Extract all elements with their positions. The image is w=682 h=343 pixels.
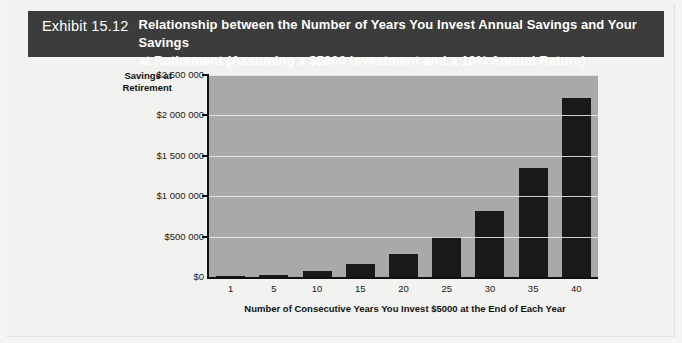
y-axis-tick — [202, 195, 208, 197]
y-axis-tick-label: $2 000 000 — [120, 109, 204, 120]
exhibit-figure: Exhibit 15.12 Relationship between the N… — [0, 0, 682, 343]
x-axis-tick-label: 20 — [384, 283, 424, 294]
bar — [562, 98, 591, 277]
gridline — [209, 156, 598, 157]
y-axis-tick-label: $1 500 000 — [120, 150, 204, 161]
plot-area — [209, 75, 598, 277]
x-axis-line — [207, 277, 598, 279]
x-axis-tick-label: 10 — [297, 283, 337, 294]
x-axis-tick-label: 1 — [211, 283, 251, 294]
gridline — [209, 237, 598, 238]
bar — [346, 264, 375, 277]
y-axis-tick — [202, 155, 208, 157]
y-axis-tick-label: $500 000 — [120, 231, 204, 242]
y-axis-line — [207, 74, 209, 278]
x-axis-tick-label: 15 — [340, 283, 380, 294]
y-axis-tick-label: $2 500 000 — [120, 69, 204, 80]
x-axis-tick-label: 30 — [470, 283, 510, 294]
x-axis-tick-label: 5 — [254, 283, 294, 294]
x-axis-tick-label: 25 — [427, 283, 467, 294]
y-axis-tick-labels: $0$500 000$1 000 000$1 500 000$2 000 000… — [114, 0, 204, 343]
bar — [389, 254, 418, 277]
bar — [519, 168, 548, 277]
x-axis-tick-label: 40 — [556, 283, 596, 294]
gridline — [209, 196, 598, 197]
gridline — [209, 75, 598, 76]
y-axis-tick-label: $1 000 000 — [120, 190, 204, 201]
x-axis-tick-label: 35 — [513, 283, 553, 294]
bar-series — [209, 75, 598, 277]
gridline — [209, 115, 598, 116]
bar — [432, 237, 461, 277]
y-axis-tick — [202, 74, 208, 76]
bar — [475, 211, 504, 277]
x-axis-title: Number of Consecutive Years You Invest $… — [209, 303, 601, 314]
y-axis-tick-label: $0 — [120, 271, 204, 282]
bar-chart: Savings at Retirement $0$500 000$1 000 0… — [0, 0, 682, 343]
y-axis-tick — [202, 236, 208, 238]
y-axis-tick — [202, 114, 208, 116]
